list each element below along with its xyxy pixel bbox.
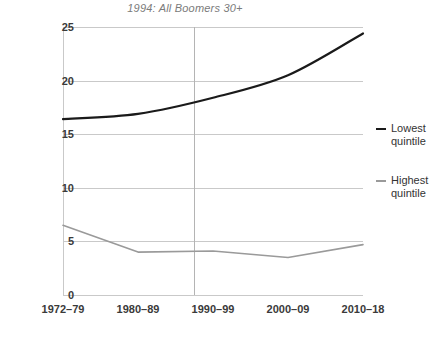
y-axis-tick-label: 20 [34, 75, 74, 87]
y-axis-tick-label: 5 [34, 235, 74, 247]
y-axis-tick-label: 15 [34, 128, 74, 140]
series-plot [63, 27, 363, 295]
x-axis-tick-label: 1990–99 [173, 303, 253, 315]
series-line [63, 33, 363, 119]
chart-title: 1994: All Boomers 30+ [0, 2, 370, 14]
y-axis-tick-label: 25 [34, 21, 74, 33]
legend-item[interactable]: Highestquintile [376, 174, 442, 200]
plot-area [63, 27, 363, 295]
x-axis-tick-label: 1972–79 [23, 303, 103, 315]
gridline [63, 295, 363, 296]
x-axis-tick-label: 2000–09 [248, 303, 328, 315]
legend-item-label-cont: quintile [391, 135, 442, 148]
legend-item-label: Lowest [391, 122, 442, 135]
legend-item-label-cont: quintile [391, 187, 442, 200]
series-line [63, 225, 363, 257]
y-axis-tick-label: 10 [34, 182, 74, 194]
legend-item-label: Highest [391, 174, 442, 187]
legend-item[interactable]: Lowestquintile [376, 122, 442, 148]
x-axis-tick-label: 1980–89 [98, 303, 178, 315]
chart-legend: LowestquintileHighestquintile [376, 122, 442, 226]
chart-figure: 1994: All Boomers 30+ 0510152025 1972–79… [0, 0, 442, 339]
legend-line-icon [376, 180, 386, 182]
y-axis-tick-label: 0 [34, 289, 74, 301]
x-axis-tick-label: 2010–18 [323, 303, 403, 315]
legend-line-icon [376, 128, 386, 130]
